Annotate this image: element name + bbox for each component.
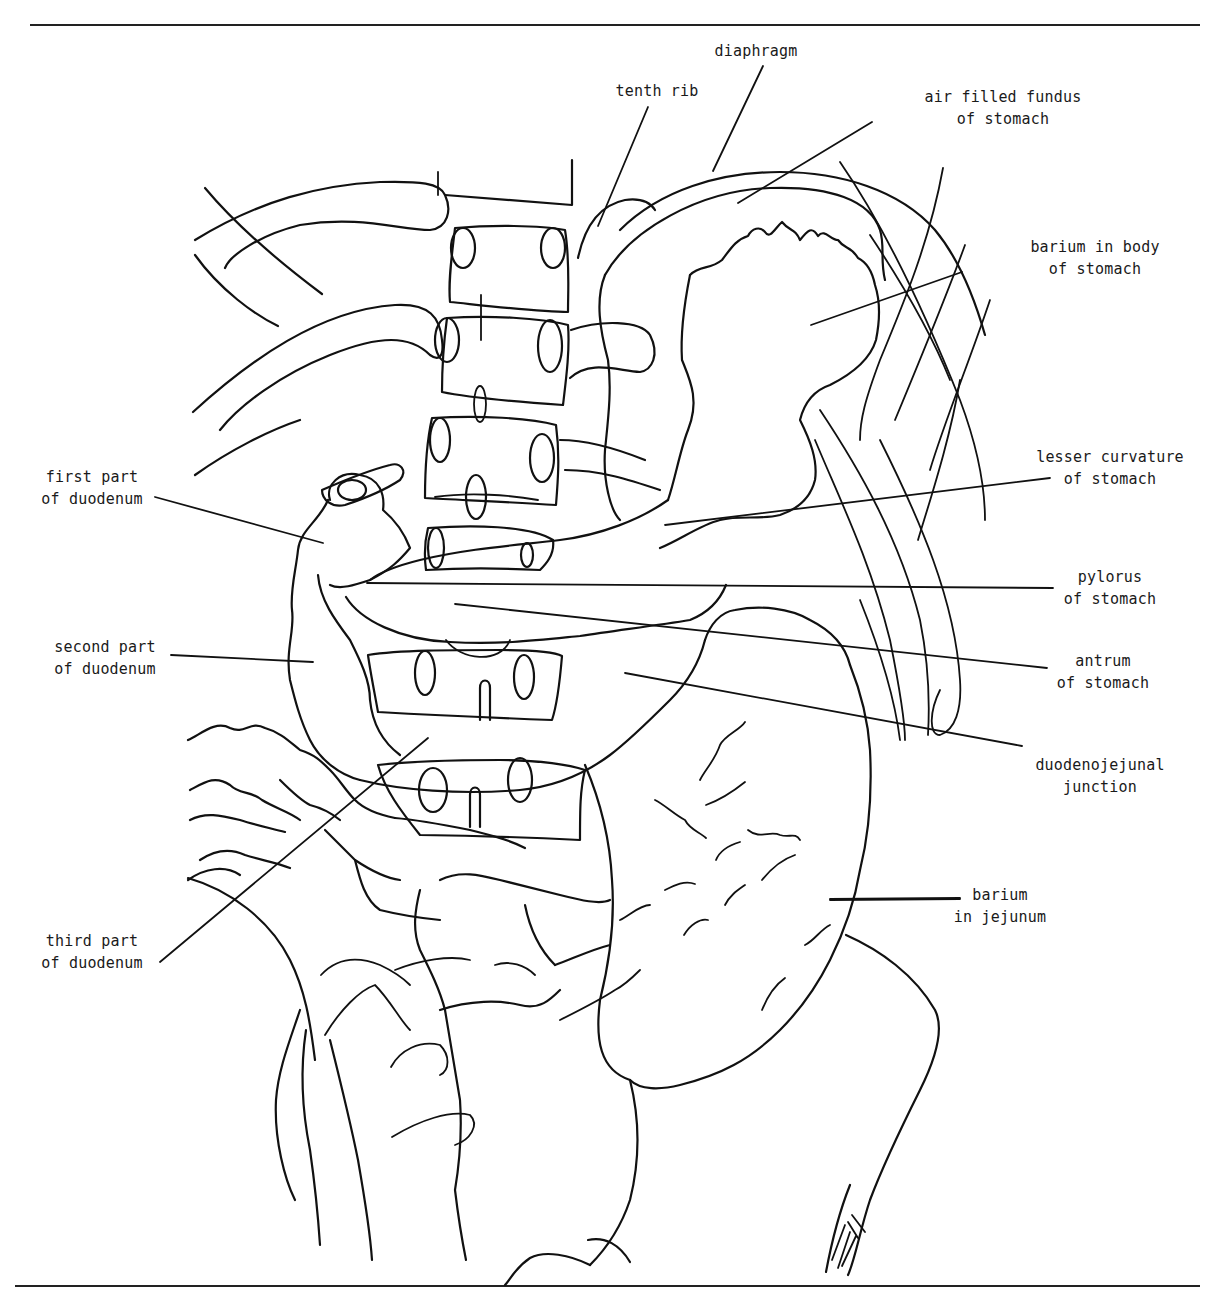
leader-line-third-part-duodenum [160,738,428,962]
label-line: of stomach [925,108,1082,130]
label-line: junction [1035,776,1164,798]
leader-line-second-part-duodenum [171,655,313,662]
label-line: of duodenum [54,658,156,680]
label-pylorus: pylorus of stomach [1064,566,1156,610]
label-line: of duodenum [41,952,143,974]
label-barium-jejunum: barium in jejunum [954,884,1046,928]
label-line: of stomach [1030,258,1159,280]
stomach [346,162,990,740]
label-line: in jejunum [954,906,1046,928]
label-line: of stomach [1064,588,1156,610]
leader-line-duodenojejunal-junction [625,673,1022,746]
radiograph-tracing [0,0,1217,1307]
anatomy-figure: diaphragm tenth rib air filled fundus of… [0,0,1217,1307]
label-line: tenth rib [615,80,698,102]
jejunum [505,665,960,1285]
label-diaphragm: diaphragm [714,40,797,62]
label-duodenojejunal-junction: duodenojejunal junction [1035,754,1164,798]
label-line: first part [41,466,143,488]
label-line: of stomach [1057,672,1149,694]
label-line: pylorus [1064,566,1156,588]
label-line: second part [54,636,156,658]
label-first-part-duodenum: first part of duodenum [41,466,143,510]
artist-signature [826,1185,865,1272]
leader-line-barium-jejunum [830,898,960,899]
label-second-part-duodenum: second part of duodenum [54,636,156,680]
label-tenth-rib: tenth rib [615,80,698,102]
label-line: of stomach [1036,468,1184,490]
label-lesser-curvature: lesser curvature of stomach [1036,446,1184,490]
label-line: lesser curvature [1036,446,1184,468]
label-antrum: antrum of stomach [1057,650,1149,694]
leader-line-first-part-duodenum [155,497,323,543]
leader-line-antrum [455,604,1047,668]
leader-line-barium-body [811,272,962,325]
leader-line-lesser-curvature [665,478,1050,525]
label-line: diaphragm [714,40,797,62]
label-barium-body: barium in body of stomach [1030,236,1159,280]
label-line: duodenojejunal [1035,754,1164,776]
label-line: barium [954,884,1046,906]
leader-line-diaphragm [713,66,763,171]
label-line: of duodenum [41,488,143,510]
label-line: third part [41,930,143,952]
label-line: air filled fundus [925,86,1082,108]
leader-line-pylorus [367,583,1053,588]
label-line: barium in body [1030,236,1159,258]
label-air-filled-fundus: air filled fundus of stomach [925,86,1082,130]
label-third-part-duodenum: third part of duodenum [41,930,143,974]
leader-line-tenth-rib [598,107,648,226]
leader-line-air-filled-fundus [738,122,872,203]
label-line: antrum [1057,650,1149,672]
vertebral-column [368,226,585,840]
